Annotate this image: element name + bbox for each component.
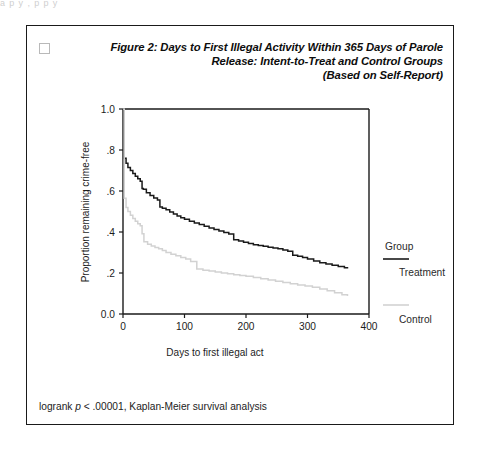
x-axis-ticks: 0100200300400 — [120, 314, 378, 332]
footnote-prefix: logrank — [39, 401, 75, 412]
series-line-control — [123, 109, 347, 296]
legend-label-control: Control — [399, 314, 432, 325]
chart-legend: Group Treatment Control — [383, 241, 445, 325]
figure-footnote: logrank p < .00001, Kaplan-Meier surviva… — [39, 401, 267, 412]
top-page-bleed-text: a p y , p p y — [0, 0, 482, 14]
footnote-suffix: < .00001, Kaplan-Meier survival analysis — [81, 401, 267, 412]
chart-series-layer — [123, 109, 347, 296]
x-tick-label: 300 — [299, 321, 316, 332]
figure-frame: Figure 2: Days to First Illegal Activity… — [26, 25, 454, 425]
y-tick-label: .2 — [107, 268, 116, 279]
y-tick-label: .8 — [107, 145, 116, 156]
x-tick-label: 400 — [361, 321, 378, 332]
legend-title: Group — [385, 241, 414, 252]
survival-chart-svg: 0.0.2.4.6.81.0 0100200300400 Proportion … — [27, 26, 455, 426]
x-tick-label: 200 — [238, 321, 255, 332]
y-tick-label: .6 — [107, 186, 116, 197]
x-axis-label: Days to first illegal act — [166, 347, 263, 358]
y-tick-label: 0.0 — [101, 309, 115, 320]
x-tick-label: 100 — [176, 321, 193, 332]
y-tick-label: 1.0 — [101, 104, 115, 115]
chart-plot-area: 0.0.2.4.6.81.0 0100200300400 Proportion … — [27, 26, 455, 426]
y-axis-label: Proportion remaining crime-free — [80, 141, 91, 282]
y-axis-ticks: 0.0.2.4.6.81.0 — [101, 104, 123, 320]
x-tick-label: 0 — [120, 321, 126, 332]
legend-label-treatment: Treatment — [399, 267, 445, 278]
y-tick-label: .4 — [107, 227, 116, 238]
series-line-treatment — [123, 109, 347, 268]
